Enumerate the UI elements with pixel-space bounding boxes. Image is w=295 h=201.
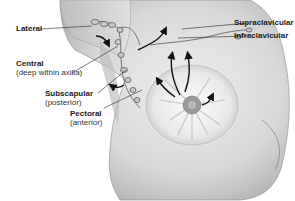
label-lateral: Lateral [16,24,42,33]
label-central: Central (deep within axilla) [16,59,82,77]
label-pectoral: Pectoral (anterior) [70,109,102,127]
nipple [188,101,196,109]
label-infraclavicular: Infraclavicular [234,31,288,40]
label-central-title: Central [16,59,82,68]
label-subscapular-title: Subscapular [45,89,93,98]
diagram-stage: Lateral Central (deep within axilla) Sub… [0,0,295,201]
label-lateral-title: Lateral [16,24,42,33]
label-supraclavicular: Supraclavicular [234,18,294,27]
label-pectoral-title: Pectoral [70,109,102,118]
label-central-sub: (deep within axilla) [16,68,82,77]
label-infraclavicular-title: Infraclavicular [234,31,288,40]
label-subscapular: Subscapular (posterior) [45,89,93,107]
label-pectoral-sub: (anterior) [70,118,102,127]
label-supraclavicular-title: Supraclavicular [234,18,294,27]
label-subscapular-sub: (posterior) [45,98,93,107]
